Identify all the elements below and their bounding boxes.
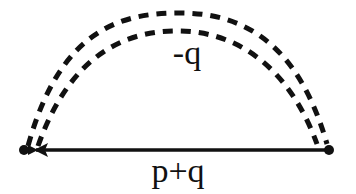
right-vertex <box>324 145 334 155</box>
feynman-diagram: -q p+q <box>0 0 356 194</box>
boson-label: -q <box>173 34 201 71</box>
left-vertex <box>19 145 29 155</box>
fermion-label: p+q <box>151 152 204 189</box>
